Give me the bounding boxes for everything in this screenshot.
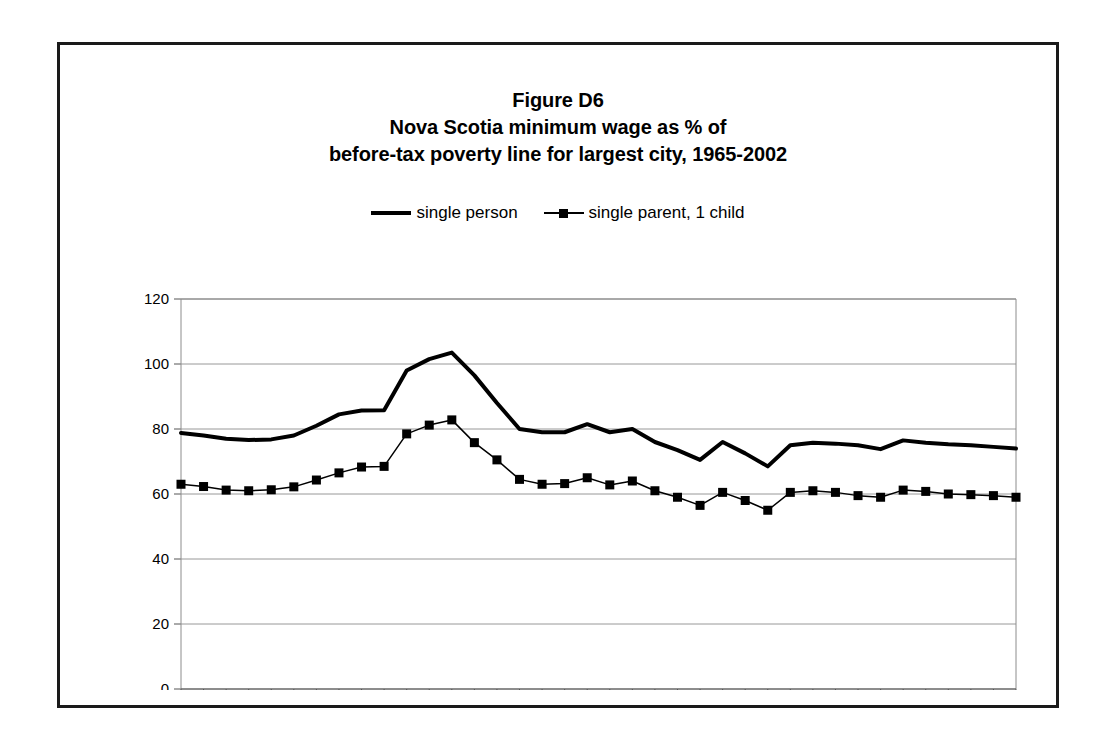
legend-item-single-parent: single parent, 1 child (544, 203, 745, 223)
legend-marker-swatch-icon (544, 206, 584, 220)
series-marker-1 (628, 477, 637, 486)
title-line-2: Nova Scotia minimum wage as % of (60, 114, 1056, 141)
series-marker-1 (854, 491, 863, 500)
legend-item-single-person: single person (371, 203, 517, 223)
series-marker-1 (763, 506, 772, 515)
series-marker-1 (696, 501, 705, 510)
series-line-0 (181, 353, 1016, 467)
series-marker-1 (605, 480, 614, 489)
series-marker-1 (177, 480, 186, 489)
series-marker-1 (538, 480, 547, 489)
line-chart: 0204060801001201965707580859095200002 (60, 235, 1056, 690)
series-marker-1 (831, 488, 840, 497)
series-marker-1 (334, 468, 343, 477)
series-marker-1 (289, 482, 298, 491)
series-marker-1 (199, 482, 208, 491)
y-tick-label: 120 (144, 290, 169, 307)
y-tick-label: 0 (161, 680, 169, 690)
y-tick-label: 100 (144, 355, 169, 372)
y-tick-label: 20 (152, 615, 169, 632)
legend-line-swatch-icon (371, 206, 411, 220)
title-line-3: before-tax poverty line for largest city… (60, 141, 1056, 168)
series-marker-1 (741, 496, 750, 505)
series-marker-1 (222, 486, 231, 495)
series-marker-1 (470, 438, 479, 447)
series-marker-1 (425, 421, 434, 430)
series-marker-1 (492, 455, 501, 464)
series-marker-1 (921, 487, 930, 496)
series-marker-1 (515, 475, 524, 484)
figure-title: Figure D6 Nova Scotia minimum wage as % … (60, 87, 1056, 168)
series-marker-1 (583, 473, 592, 482)
chart-plot-area: 0204060801001201965707580859095200002 (60, 235, 1056, 690)
series-marker-1 (447, 415, 456, 424)
series-marker-1 (312, 476, 321, 485)
series-marker-1 (267, 485, 276, 494)
series-marker-1 (966, 490, 975, 499)
series-marker-1 (718, 488, 727, 497)
series-marker-1 (1012, 493, 1021, 502)
series-marker-1 (786, 488, 795, 497)
series-marker-1 (876, 493, 885, 502)
series-marker-1 (673, 493, 682, 502)
series-marker-1 (944, 490, 953, 499)
chart-legend: single person single parent, 1 child (60, 203, 1056, 223)
series-marker-1 (808, 486, 817, 495)
legend-label-single-person: single person (416, 203, 517, 223)
figure-inner: Figure D6 Nova Scotia minimum wage as % … (60, 45, 1056, 705)
series-marker-1 (650, 486, 659, 495)
series-line-1 (181, 420, 1016, 510)
series-marker-1 (244, 486, 253, 495)
series-marker-1 (899, 486, 908, 495)
y-tick-label: 40 (152, 550, 169, 567)
series-marker-1 (402, 429, 411, 438)
series-marker-1 (380, 462, 389, 471)
series-marker-1 (560, 479, 569, 488)
figure-frame: Figure D6 Nova Scotia minimum wage as % … (57, 42, 1059, 708)
legend-label-single-parent: single parent, 1 child (589, 203, 745, 223)
y-tick-label: 60 (152, 485, 169, 502)
series-marker-1 (989, 491, 998, 500)
series-marker-1 (357, 463, 366, 472)
title-line-1: Figure D6 (60, 87, 1056, 114)
y-tick-label: 80 (152, 420, 169, 437)
